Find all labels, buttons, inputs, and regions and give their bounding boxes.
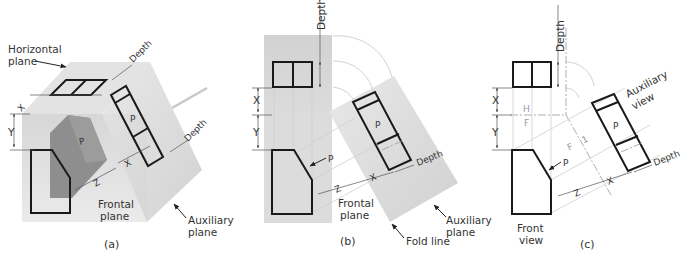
auxiliary-view-diagram: P P Y X X Z Depth Depth Horizontal plane… <box>0 0 692 263</box>
depth-right-label: Depth <box>182 117 208 143</box>
auxiliary-plane-label-b: Auxiliary <box>446 214 492 226</box>
svg-text:P: P <box>613 121 619 131</box>
svg-text:Depth: Depth <box>652 148 681 168</box>
svg-text:view: view <box>519 234 544 246</box>
viewing-direction-arrow <box>172 88 207 108</box>
svg-text:plane: plane <box>446 226 475 238</box>
svg-text:X: X <box>605 175 615 187</box>
svg-text:Y: Y <box>491 126 499 138</box>
svg-text:Z: Z <box>333 183 343 195</box>
svg-text:P: P <box>563 158 569 168</box>
svg-text:P: P <box>375 120 381 130</box>
svg-text:1: 1 <box>580 134 589 145</box>
front-view-label: Front <box>517 222 544 234</box>
panel-c: P H F F 1 X Y Depth Z X Depth P Auxiliar… <box>491 5 681 251</box>
svg-text:plane: plane <box>340 209 369 221</box>
svg-text:Y: Y <box>252 126 260 138</box>
svg-text:P: P <box>328 154 334 164</box>
panel-b: P X Y Depth Z X Depth P Frontal plane Au… <box>252 0 492 248</box>
depth-top-label-b: Depth <box>315 0 327 30</box>
svg-text:plane: plane <box>188 226 217 238</box>
fold-label-f: F <box>524 118 529 128</box>
caption-a: (a) <box>104 238 119 251</box>
svg-text:X: X <box>492 94 499 106</box>
horizontal-plane-label: Horizontal <box>8 43 62 55</box>
fold-label-h: H <box>523 104 530 114</box>
frontal-plane-label: Frontal <box>98 198 134 210</box>
dim-y-label: Y <box>7 126 15 138</box>
caption-c: (c) <box>580 238 595 251</box>
svg-text:X: X <box>253 94 260 106</box>
svg-text:F: F <box>566 141 575 152</box>
front-view-c <box>512 150 551 214</box>
auxiliary-plane-label: Auxiliary <box>188 214 234 226</box>
frontal-plane-label-b: Frontal <box>338 197 374 209</box>
svg-text:plane: plane <box>8 55 37 67</box>
depth-top-label-c: Depth <box>554 20 566 52</box>
panel-a: P P Y X X Z Depth Depth Horizontal plane… <box>7 38 234 251</box>
caption-b: (b) <box>340 235 356 248</box>
svg-text:P: P <box>130 114 136 124</box>
fold-line-label: Fold line <box>406 235 450 247</box>
depth-top-label: Depth <box>127 38 153 64</box>
svg-text:plane: plane <box>100 210 129 222</box>
